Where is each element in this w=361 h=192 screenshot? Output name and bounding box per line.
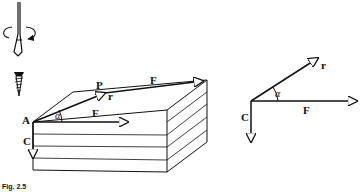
right-label-force: F [303,104,310,116]
label-couple: C [23,135,31,147]
screwdriver [14,2,22,56]
block-right-face [167,80,207,172]
block-front-face [33,110,167,172]
screw-head [14,72,24,76]
right-label-radius: r [321,59,326,71]
screwdriver-shaft [14,2,22,56]
left-diagram: P A F F C r α [4,2,207,172]
label-radius: r [108,90,113,102]
diagram-canvas: P A F F C r α r α F C Fig. 2.5 [0,0,361,192]
layered-block [33,80,207,172]
right-diagram: r α F C [241,58,357,142]
wood-screw [14,72,24,96]
label-angle: α [55,110,61,121]
right-label-angle: α [275,88,281,99]
label-force-front: F [92,107,99,119]
right-radius-vector [251,58,318,101]
right-label-couple: C [241,111,249,123]
label-point-a: A [22,114,30,126]
figure-caption: Fig. 2.5 [2,183,26,191]
label-force-top: F [150,74,157,86]
label-point-p: P [96,79,103,91]
